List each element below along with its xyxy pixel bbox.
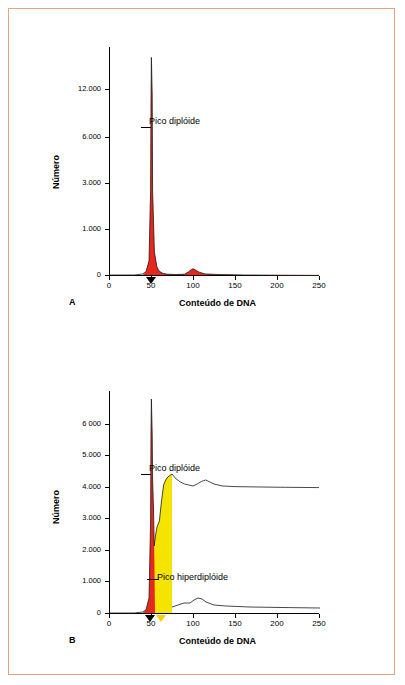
panel-a-x-tick-250	[319, 276, 320, 280]
panel-b-x-ticklabel-150: 150	[225, 619, 245, 628]
panel-a-annotation-diploid-peak: Pico diplóide	[149, 116, 200, 126]
panel-b-y-ticklabel-2000: 2.000	[61, 545, 101, 554]
panel-a-x-ticklabel-150: 150	[225, 281, 245, 290]
panel-b-y-ticklabel-5000: 5.000	[61, 450, 101, 459]
panel-a-x-tick-100	[193, 276, 194, 280]
panel-a-letter: A	[69, 297, 76, 307]
panel-a-histogram-outline	[109, 58, 319, 276]
panel-b-x-ticklabel-100: 100	[183, 619, 203, 628]
panel-a-diploid-peak-fill	[143, 58, 319, 276]
panel-a-x-ticklabel-0: 0	[99, 281, 119, 290]
panel-b-tail-outline	[172, 598, 320, 608]
panel-b-annotation-hyperdiploid-leader	[147, 579, 159, 580]
panel-b-annotation-hyperdiploid-peak: Pico hiperdiplóide	[157, 572, 228, 582]
panel-b-y-ticklabel-0: 0	[65, 608, 101, 617]
panel-b-letter: B	[69, 635, 76, 645]
panel-b-x-tick-150	[235, 614, 236, 618]
panel-b-y-ticklabel-4000: 4.000	[61, 482, 101, 491]
panel-a-x-ticklabel-200: 200	[267, 281, 287, 290]
panel-b-x-tick-0	[109, 614, 110, 618]
panel-a-x-axis-title: Conteúdo de DNA	[179, 298, 256, 308]
panel-b-y-ticklabel-3000: 3.000	[61, 513, 101, 522]
chart-panel-b: Número 0 1.000 2.000 3.000 4.000 5.000 6…	[9, 364, 396, 676]
panel-b-y-axis-title: Número	[51, 490, 61, 524]
panel-a-y-ticklabel-6000: 6.000	[65, 132, 101, 141]
panel-a-x-tick-0	[109, 276, 110, 280]
panel-b-hyperdiploid-peak-fill	[154, 474, 173, 613]
panel-b-x-ticklabel-0: 0	[99, 619, 119, 628]
figure-frame: Número 0 1.000 3.000 6.000 12.000 0 50 1…	[8, 8, 395, 675]
panel-b-x-axis-title: Conteúdo de DNA	[179, 636, 256, 646]
panel-a-y-ticklabel-3000: 3.000	[65, 178, 101, 187]
panel-a-y-ticklabel-12000: 12.000	[61, 84, 101, 93]
panel-b-hyperdiploid-peak-marker	[156, 615, 166, 622]
panel-a-histogram-curve	[109, 47, 321, 276]
panel-b-annotation-diploid-leader	[141, 474, 151, 475]
panel-a-x-tick-150	[235, 276, 236, 280]
panel-a-annotation-leader	[141, 127, 151, 128]
panel-a-x-ticklabel-250: 250	[309, 281, 329, 290]
panel-b-diploid-peak-marker	[145, 615, 155, 622]
panel-b-x-tick-100	[193, 614, 194, 618]
panel-b-y-ticklabel-6000: 6 000	[61, 419, 101, 428]
panel-a-y-ticklabel-0: 0	[65, 270, 101, 279]
panel-a-x-ticklabel-100: 100	[183, 281, 203, 290]
chart-panel-a: Número 0 1.000 3.000 6.000 12.000 0 50 1…	[9, 9, 396, 339]
panel-b-y-ticklabel-1000: 1.000	[61, 576, 101, 585]
panel-a-x-tick-200	[277, 276, 278, 280]
panel-b-x-ticklabel-200: 200	[267, 619, 287, 628]
panel-a-y-ticklabel-1000: 1.000	[65, 224, 101, 233]
panel-b-x-ticklabel-250: 250	[309, 619, 329, 628]
panel-b-x-tick-200	[277, 614, 278, 618]
panel-a-diploid-peak-marker	[146, 277, 156, 284]
panel-b-x-tick-250	[319, 614, 320, 618]
panel-b-annotation-diploid-peak: Pico diplóide	[149, 463, 200, 473]
panel-a-y-axis-title: Número	[51, 155, 61, 189]
